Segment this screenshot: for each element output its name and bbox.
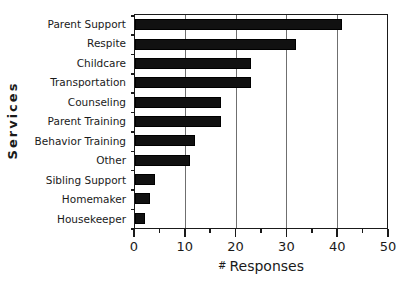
x-axis-minor-tick-mark bbox=[311, 229, 313, 233]
x-axis-tick-label: 40 bbox=[329, 239, 346, 254]
y-axis-tick-label: Parent Support bbox=[22, 14, 130, 34]
y-axis-tick-label: Counseling bbox=[22, 92, 130, 112]
bar-row bbox=[135, 209, 387, 228]
x-axis-minor-tick-mark bbox=[159, 229, 161, 233]
x-axis-minor-tick-mark bbox=[260, 229, 262, 233]
y-axis-tick-mark bbox=[131, 15, 135, 17]
y-axis-tick-mark bbox=[131, 151, 135, 153]
bar-series bbox=[135, 15, 387, 228]
y-axis-tick-mark bbox=[131, 92, 135, 94]
bar-row bbox=[135, 15, 387, 34]
y-axis-tick-mark bbox=[131, 189, 135, 191]
y-axis-tick-mark bbox=[131, 209, 135, 211]
x-axis-tick-label: 20 bbox=[227, 239, 244, 254]
bar bbox=[135, 174, 155, 185]
y-axis-title: Services bbox=[6, 81, 21, 159]
y-axis-tick-label: Sibling Support bbox=[22, 170, 130, 190]
y-axis-tick-mark bbox=[131, 34, 135, 36]
bar bbox=[135, 58, 251, 69]
y-axis-tick-label: Parent Training bbox=[22, 112, 130, 132]
bar bbox=[135, 39, 296, 50]
y-axis-tick-label: Transportation bbox=[22, 73, 130, 93]
bar-row bbox=[135, 189, 387, 208]
bar bbox=[135, 155, 190, 166]
bar bbox=[135, 193, 150, 204]
bar-row bbox=[135, 112, 387, 131]
bar-chart-figure: Services Parent SupportRespiteChildcareT… bbox=[0, 0, 405, 287]
y-axis-tick-mark bbox=[131, 131, 135, 133]
bar bbox=[135, 213, 145, 224]
x-axis-tick-label: 30 bbox=[278, 239, 295, 254]
bar bbox=[135, 97, 221, 108]
y-axis-tick-label: Childcare bbox=[22, 53, 130, 73]
x-axis-tick-label: 50 bbox=[380, 239, 397, 254]
bar-row bbox=[135, 170, 387, 189]
x-axis-tick-label: 0 bbox=[130, 239, 138, 254]
bar-row bbox=[135, 131, 387, 150]
y-axis-tick-mark bbox=[131, 170, 135, 172]
y-axis-tick-mark bbox=[131, 112, 135, 114]
bar-row bbox=[135, 73, 387, 92]
x-axis-tick-mark bbox=[286, 229, 288, 237]
plot-area bbox=[134, 14, 388, 229]
x-axis-tick-mark bbox=[235, 229, 237, 237]
y-axis-tick-mark bbox=[131, 73, 135, 75]
x-axis-title: #Responses bbox=[134, 258, 388, 274]
y-axis-tick-label: Homemaker bbox=[22, 190, 130, 210]
x-axis-tick-label: 10 bbox=[177, 239, 194, 254]
x-axis-tick-mark bbox=[133, 229, 135, 237]
x-axis-tick-mark bbox=[184, 229, 186, 237]
bar-row bbox=[135, 34, 387, 53]
y-axis-tick-labels: Parent SupportRespiteChildcareTransporta… bbox=[22, 14, 130, 229]
y-axis-tick-label: Behavior Training bbox=[22, 131, 130, 151]
bar bbox=[135, 116, 221, 127]
y-axis-tick-mark bbox=[131, 54, 135, 56]
bar bbox=[135, 19, 342, 30]
y-axis-tick-label: Respite bbox=[22, 34, 130, 54]
x-axis-tick-mark bbox=[336, 229, 338, 237]
bar bbox=[135, 77, 251, 88]
x-axis-tick-mark bbox=[387, 229, 389, 237]
hash-symbol: # bbox=[218, 260, 226, 271]
bar bbox=[135, 135, 195, 146]
bar-row bbox=[135, 54, 387, 73]
x-axis-title-text: Responses bbox=[229, 258, 304, 274]
x-axis-minor-tick-mark bbox=[209, 229, 211, 233]
y-axis-tick-label: Other bbox=[22, 151, 130, 171]
x-axis-minor-tick-mark bbox=[362, 229, 364, 233]
bar-row bbox=[135, 92, 387, 111]
bar-row bbox=[135, 151, 387, 170]
y-axis-tick-label: Housekeeper bbox=[22, 209, 130, 229]
